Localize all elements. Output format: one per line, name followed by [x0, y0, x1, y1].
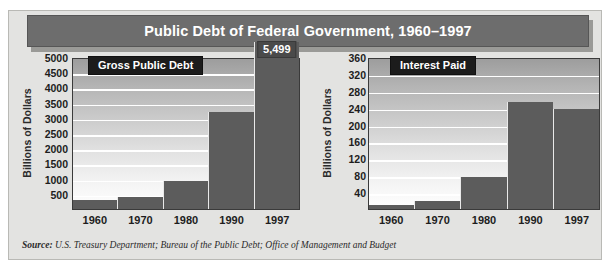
chart-legend-left: Gross Public Debt: [88, 56, 203, 75]
x-tick-label: 1997: [254, 214, 300, 232]
y-tick-label: 80: [354, 170, 366, 182]
bar: [73, 200, 117, 209]
y-tick-label: 4000: [45, 82, 68, 94]
y-tick-label: 2000: [45, 143, 68, 155]
y-tick-label: 4500: [45, 67, 68, 79]
y-tick-label: 160: [348, 136, 366, 148]
x-tick-label: 1980: [461, 214, 507, 232]
y-axis-tick-labels-right: 3603202802402001601208040: [332, 58, 368, 210]
bar: [507, 102, 553, 209]
plot-area-right: [368, 58, 600, 210]
y-tick-label: 200: [348, 120, 366, 132]
x-tick-label: 1980: [163, 214, 209, 232]
bar: [460, 177, 506, 209]
chart-legend-right: Interest Paid: [390, 56, 476, 75]
y-axis-tick-labels-left: 500045004000350030002500200015001000500: [34, 58, 70, 210]
y-tick-label: 240: [348, 103, 366, 115]
source-note: Source: U.S. Treasury Department; Bureau…: [22, 240, 582, 250]
x-tick-label: 1970: [118, 214, 164, 232]
page-title: Public Debt of Federal Government, 1960–…: [144, 23, 472, 39]
x-tick-label: 1997: [554, 214, 600, 232]
y-tick-label: 280: [348, 86, 366, 98]
bar: [553, 109, 599, 209]
bar-series-left: 5,499: [73, 59, 299, 209]
figure-root: Public Debt of Federal Government, 1960–…: [0, 0, 615, 272]
chart-interest-paid: Billions of Dollars 36032028024020016012…: [318, 58, 603, 238]
x-tick-label: 1990: [209, 214, 255, 232]
x-tick-label: 1960: [368, 214, 414, 232]
bar: [208, 112, 253, 209]
source-label: Source:: [22, 240, 53, 250]
chart-gross-public-debt: Billions of Dollars 50004500400035003000…: [18, 58, 303, 238]
x-tick-label: 1960: [72, 214, 118, 232]
x-tick-label: 1970: [414, 214, 460, 232]
bar-series-right: [369, 59, 599, 209]
y-tick-label: 40: [354, 187, 366, 199]
plot-area-left: 5,499: [72, 58, 300, 210]
y-tick-label: 360: [348, 52, 366, 64]
y-tick-label: 500: [50, 189, 68, 201]
y-tick-label: 120: [348, 153, 366, 165]
bar: [414, 201, 460, 209]
x-axis-tick-labels-left: 19601970198019901997: [72, 214, 300, 232]
bar: [117, 197, 162, 209]
x-axis-tick-labels-right: 19601970198019901997: [368, 214, 600, 232]
y-tick-label: 1500: [45, 158, 68, 170]
bar: 5,499: [254, 42, 299, 209]
y-tick-label: 320: [348, 69, 366, 81]
y-tick-label: 1000: [45, 174, 68, 186]
source-body: U.S. Treasury Department; Bureau of the …: [53, 240, 397, 250]
figure-title-bar: Public Debt of Federal Government, 1960–…: [27, 15, 589, 47]
y-tick-label: 5000: [45, 52, 68, 64]
y-tick-label: 3000: [45, 113, 68, 125]
y-tick-label: 3500: [45, 98, 68, 110]
x-tick-label: 1990: [507, 214, 553, 232]
bar: [369, 205, 414, 209]
y-tick-label: 2500: [45, 128, 68, 140]
value-callout: 5,499: [257, 41, 297, 58]
bar: [163, 181, 208, 209]
